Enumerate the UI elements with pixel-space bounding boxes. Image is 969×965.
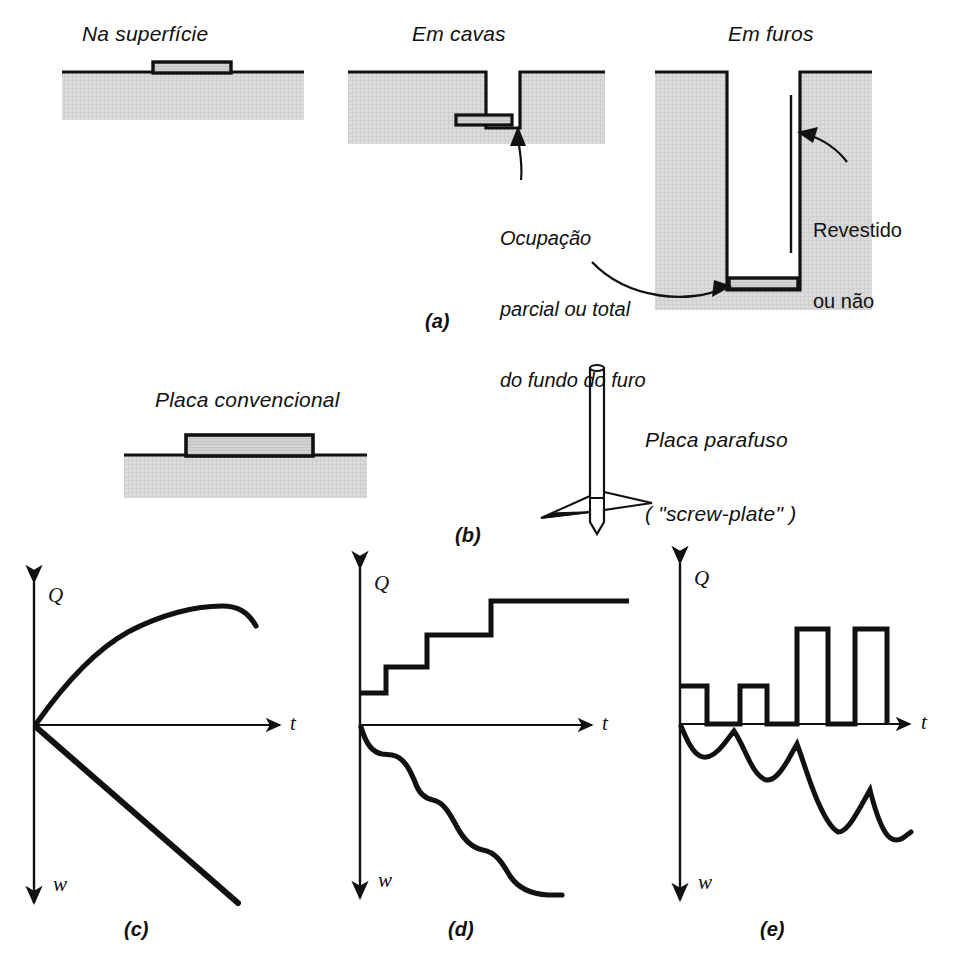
chart-d-ylabel-up: Q	[374, 571, 389, 596]
soil-mass-em-cavas	[348, 72, 605, 144]
annotation-ocupacao-line-2: parcial ou total	[500, 298, 646, 322]
plate-na-superficie	[153, 62, 231, 73]
figure-root: Na superfície Em cavas Em furos Ocupação…	[0, 0, 969, 965]
chart-e-ylabel-up: Q	[694, 566, 709, 591]
plate-em-furos	[729, 278, 798, 289]
annotation-ocupacao: Ocupação parcial ou total do fundo do fu…	[500, 180, 646, 440]
chart-e-load-pulses	[680, 629, 887, 724]
soil-mass-na-superficie	[62, 72, 304, 120]
title-em-furos: Em furos	[728, 22, 814, 47]
chart-tag-e: (e)	[760, 918, 784, 942]
panel-tag-b: (b)	[455, 524, 481, 548]
panel-tag-a: (a)	[425, 310, 449, 334]
annotation-ocupacao-line-1: Ocupação	[500, 227, 646, 251]
diagram-placa-convencional	[124, 435, 367, 498]
title-placa-parafuso: Placa parafuso ( "screw-plate" )	[645, 378, 796, 576]
diagram-na-superficie	[62, 62, 304, 120]
chart-c-ylabel-down: w	[53, 872, 67, 897]
chart-d-xlabel: t	[602, 711, 608, 736]
title-placa-convencional: Placa convencional	[155, 388, 340, 413]
annotation-revestido-line-2: ou não	[813, 290, 902, 314]
title-placa-parafuso-line-2: ( "screw-plate" )	[645, 502, 796, 527]
annotation-revestido: Revestido ou não	[813, 172, 902, 361]
annotation-revestido-line-1: Revestido	[813, 219, 902, 243]
chart-c-load-curve	[36, 606, 256, 724]
plate-em-cavas	[456, 115, 512, 125]
chart-d-load-staircase	[360, 601, 629, 693]
chart-c-xlabel: t	[290, 711, 296, 736]
diagram-em-cavas	[348, 72, 605, 180]
chart-d	[360, 568, 629, 898]
soil-mass-placa-convencional	[124, 455, 367, 498]
chart-c	[34, 582, 280, 903]
title-placa-parafuso-line-1: Placa parafuso	[645, 428, 796, 453]
screw-plate-tip	[590, 508, 604, 534]
chart-c-ylabel-up: Q	[48, 583, 63, 608]
chart-e	[680, 563, 911, 900]
annotation-ocupacao-line-3: do fundo do furo	[500, 369, 646, 393]
chart-tag-d: (d)	[448, 918, 474, 942]
chart-e-ylabel-down: w	[698, 870, 712, 895]
title-na-superficie: Na superfície	[82, 22, 208, 47]
screw-plate-blade-shadow	[541, 512, 590, 518]
plate-convencional	[186, 435, 313, 456]
chart-e-xlabel: t	[921, 710, 927, 735]
chart-tag-c: (c)	[124, 918, 148, 942]
chart-d-ylabel-down: w	[378, 868, 392, 893]
figure-graphics	[0, 0, 969, 965]
chart-e-settlement-curve	[681, 726, 911, 840]
title-em-cavas: Em cavas	[412, 22, 506, 47]
